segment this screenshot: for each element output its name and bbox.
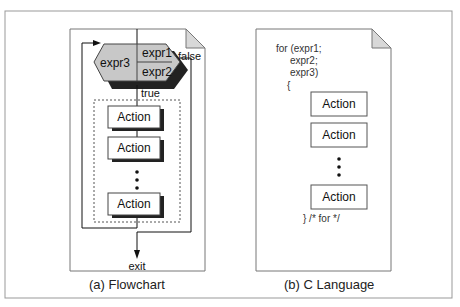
- code-line-4: {: [276, 80, 291, 91]
- expr3-label: expr3: [100, 56, 130, 70]
- code-action-3-label: Action: [322, 190, 355, 204]
- c-language-caption: (b) C Language: [284, 277, 374, 292]
- code-line-1: for (expr1;: [276, 43, 322, 54]
- code-action-2-label: Action: [322, 128, 355, 142]
- flow-action-3-label: Action: [117, 197, 150, 211]
- expr1-label: expr1: [142, 46, 172, 60]
- for-loop-figure: expr1 expr2 expr3 false true Action Acti…: [0, 0, 460, 307]
- true-label: true: [141, 87, 160, 99]
- code-closing: } /* for */: [303, 213, 340, 224]
- flow-action-1-label: Action: [117, 110, 150, 124]
- flow-action-2-label: Action: [117, 141, 150, 155]
- flowchart-caption: (a) Flowchart: [89, 277, 165, 292]
- code-line-2: expr2;: [276, 55, 318, 66]
- code-line-3: expr3): [276, 67, 318, 78]
- false-label: false: [178, 50, 201, 62]
- exit-label: exit: [128, 260, 145, 272]
- code-action-1-label: Action: [322, 97, 355, 111]
- expr2-label: expr2: [142, 65, 172, 79]
